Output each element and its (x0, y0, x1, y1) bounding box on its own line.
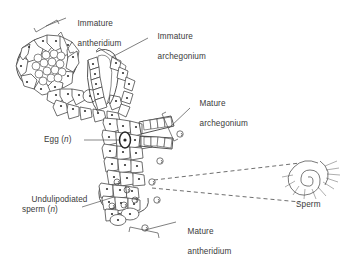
diagram-canvas: .c{fill:#fff;stroke:#3f3f3f;stroke-width… (0, 0, 348, 259)
sperm-detail-drawing (282, 161, 340, 199)
mature-archegonium-structure (139, 116, 174, 149)
label-egg: Egg (n) (44, 135, 72, 145)
label-immature-archegonium: Immature archegonium (148, 22, 206, 72)
label-undulipodiated-sperm: Undulipodiatedsperm (n) (22, 185, 88, 225)
egg-cell (120, 132, 131, 148)
label-immature-antheridium: Immature antheridium (68, 9, 121, 59)
label-sperm: Sperm (296, 200, 321, 210)
sperm-magnifier-lines (152, 163, 300, 202)
label-mature-antheridium: Mature antheridium (178, 217, 231, 259)
label-mature-archegonium: Mature archegonium (190, 89, 248, 139)
mature-antheridium-structure (99, 179, 148, 226)
